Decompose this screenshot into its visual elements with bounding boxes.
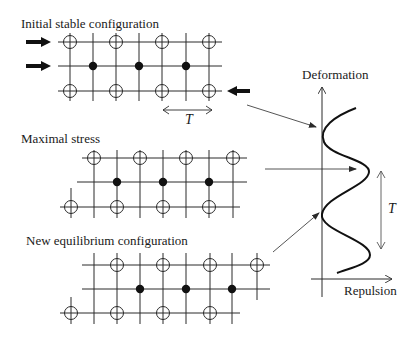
filled-atom-icon (205, 178, 213, 186)
panel-title-new: New equilibrium configuration (26, 234, 188, 247)
filled-atom-icon (136, 285, 144, 293)
filled-atom-icon (182, 62, 190, 70)
filled-atom-icon (113, 178, 121, 186)
force-arrow-icon (41, 37, 51, 47)
period-label-lattice: T (185, 113, 193, 127)
period-label-graph: T (388, 202, 396, 216)
lattice-panels (26, 33, 270, 324)
connector-arrow (247, 105, 316, 127)
force-arrow-icon (227, 86, 237, 96)
connector-arrows (247, 105, 356, 252)
filled-atom-icon (159, 178, 167, 186)
filled-atom-icon (182, 285, 190, 293)
y-axis-label: Deformation (302, 68, 368, 81)
panel-title-maximal: Maximal stress (21, 132, 100, 145)
lattice-new (60, 253, 270, 324)
deformation-repulsion-graph (311, 87, 392, 297)
deformation-curve (322, 108, 370, 273)
filled-atom-icon (228, 285, 236, 293)
force-arrow-icon (41, 61, 51, 71)
filled-atom-icon (135, 62, 143, 70)
x-axis-label: Repulsion (344, 284, 397, 297)
filled-atom-icon (89, 62, 97, 70)
lattice-initial (26, 33, 250, 114)
connector-arrow (273, 213, 319, 252)
lattice-maximal (60, 150, 247, 218)
panel-title-initial: Initial stable configuration (21, 17, 159, 30)
